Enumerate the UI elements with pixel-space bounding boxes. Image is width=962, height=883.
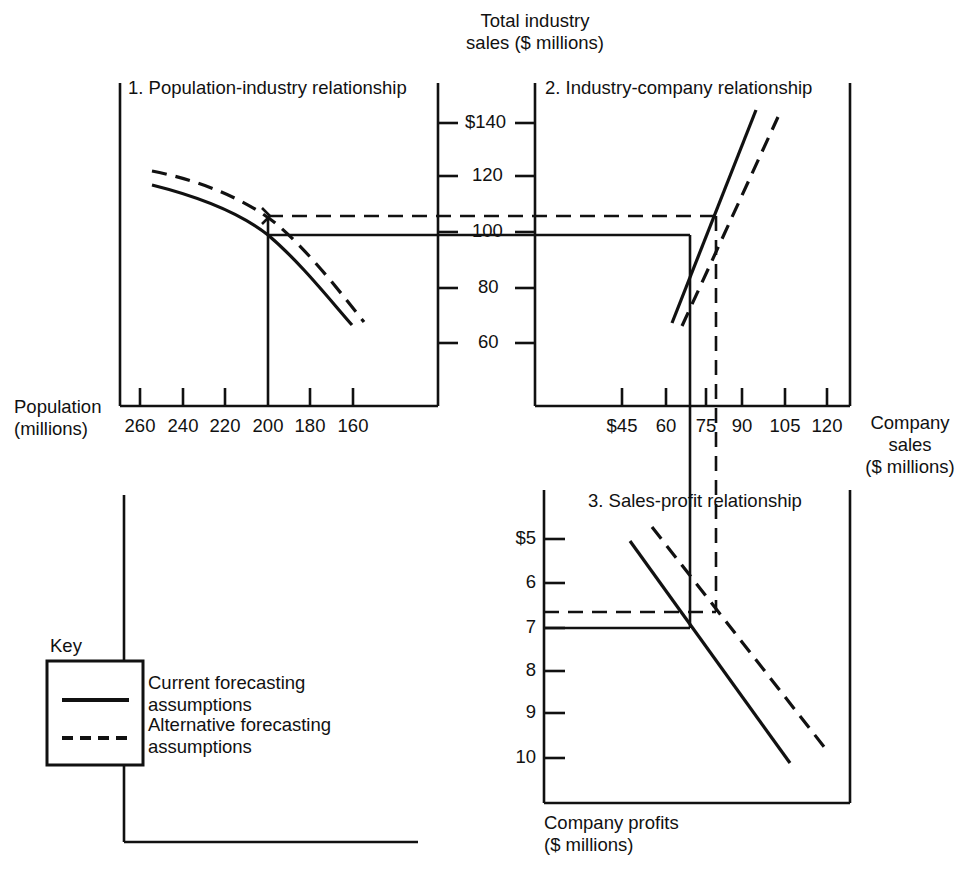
- y-tick-label-120: 120: [472, 164, 503, 186]
- x-tick-label-160: 160: [328, 415, 378, 437]
- panel-1-y-ticks: [438, 123, 458, 343]
- profit-tick-label-7: 7: [488, 616, 536, 638]
- profit-tick-label-10: 10: [488, 746, 536, 768]
- company-sales-tick-120: 120: [802, 415, 852, 437]
- panel-2-y-ticks: [515, 123, 535, 343]
- panel-3-axes: [544, 490, 850, 803]
- panel-1-x-ticks: [140, 388, 353, 406]
- panel-2-x-ticks: [622, 388, 827, 406]
- forecasting-nomograph-figure: Total industry sales ($ millions) 1. Pop…: [0, 0, 962, 883]
- key-box: [47, 661, 143, 765]
- axis-title-company-profits: Company profits ($ millions): [544, 812, 679, 856]
- axis-title-total-industry-sales: Total industry sales ($ millions): [420, 10, 650, 54]
- panel-3-title: 3. Sales-profit relationship: [588, 490, 802, 512]
- panel-2-title: 2. Industry-company relationship: [545, 77, 812, 99]
- key-title: Key: [50, 635, 82, 657]
- panel-1-axes: [120, 83, 458, 406]
- axis-title-population: Population (millions): [14, 396, 101, 440]
- panel-3-line-current: [630, 541, 790, 763]
- axis-title-company-sales: Company sales ($ millions): [858, 412, 962, 477]
- panel-3-line-alternative: [652, 527, 825, 748]
- profit-tick-label-8: 8: [488, 659, 536, 681]
- key-entry-current-label: Current forecasting assumptions: [148, 672, 305, 716]
- y-tick-label-80: 80: [478, 276, 499, 298]
- y-tick-label-60: 60: [478, 331, 499, 353]
- panel-2-axes: [515, 83, 850, 406]
- panel-2-line-alternative: [682, 117, 778, 326]
- profit-tick-label-9: 9: [488, 701, 536, 723]
- panel-1-title: 1. Population-industry relationship: [128, 77, 407, 99]
- y-tick-label-100: 100: [472, 220, 503, 242]
- company-sales-tick-45: $45: [597, 415, 647, 437]
- key-bracket: [124, 495, 418, 842]
- panel-3-y-ticks: [544, 539, 565, 758]
- profit-tick-label-5: $5: [488, 527, 536, 549]
- key-entry-alternative-label: Alternative forecasting assumptions: [148, 714, 331, 758]
- profit-tick-label-6: 6: [488, 571, 536, 593]
- y-tick-label-140: $140: [465, 111, 506, 133]
